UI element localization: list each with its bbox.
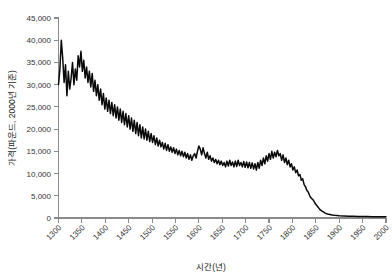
y-axis-title: 가격(파운드, 2000년 기준)	[7, 70, 17, 166]
price-series-line	[59, 40, 387, 217]
x-tick-label: 1450	[115, 223, 134, 242]
x-axis-title: 시간(년)	[196, 262, 226, 272]
y-tick-label: 5,000	[31, 192, 52, 201]
x-tick-label: 1550	[161, 223, 180, 242]
x-tick-label: 1850	[302, 223, 321, 242]
y-tick-label: 20,000	[27, 125, 52, 134]
x-tick-label: 1800	[278, 223, 297, 242]
x-tick-label: 1750	[255, 223, 274, 242]
x-axis-tick-labels: 1300135014001450150015501600165017001750…	[44, 223, 391, 242]
x-tick-label: 1300	[44, 223, 63, 242]
x-tick-label: 2000	[372, 223, 391, 242]
x-tick-label: 1400	[91, 223, 110, 242]
x-axis-group: 1300135014001450150015501600165017001750…	[44, 218, 391, 242]
y-tick-label: 40,000	[27, 36, 52, 45]
y-tick-label: 35,000	[27, 58, 52, 67]
y-tick-label: 45,000	[27, 14, 52, 23]
y-tick-label: 0	[47, 214, 52, 223]
x-tick-label: 1900	[325, 223, 344, 242]
y-axis-ticks	[54, 18, 59, 218]
y-axis-tick-labels: 05,00010,00015,00020,00025,00030,00035,0…	[27, 14, 52, 223]
x-tick-label: 1500	[138, 223, 157, 242]
chart-plot-area: 05,00010,00015,00020,00025,00030,00035,0…	[0, 0, 392, 279]
x-tick-label: 1700	[232, 223, 251, 242]
x-axis-ticks	[59, 218, 387, 223]
y-tick-label: 25,000	[27, 103, 52, 112]
y-axis-group: 05,00010,00015,00020,00025,00030,00035,0…	[27, 14, 59, 223]
y-tick-label: 15,000	[27, 147, 52, 156]
y-tick-label: 30,000	[27, 81, 52, 90]
x-tick-label: 1600	[185, 223, 204, 242]
data-series-group	[59, 40, 387, 217]
price-over-time-chart: 05,00010,00015,00020,00025,00030,00035,0…	[0, 0, 392, 279]
x-tick-label: 1950	[349, 223, 368, 242]
x-tick-label: 1350	[68, 223, 87, 242]
x-tick-label: 1650	[208, 223, 227, 242]
y-tick-label: 10,000	[27, 170, 52, 179]
